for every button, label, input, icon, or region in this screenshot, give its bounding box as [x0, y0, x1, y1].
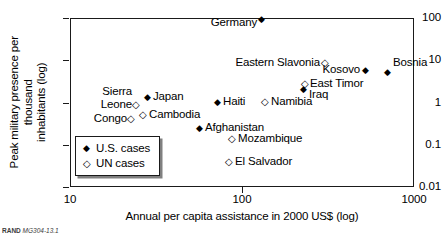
open-diamond-icon [139, 108, 147, 120]
open-diamond-icon [127, 112, 135, 124]
point-label-namibia: Namibia [271, 95, 312, 108]
y-tick-100 [63, 18, 69, 19]
source-caption: RAND MG304-13.1 [2, 227, 59, 235]
source-prefix: RAND [2, 227, 21, 234]
legend-item-un-cases[interactable]: UN cases [83, 156, 150, 171]
y-tick-label-0.1: 0.1 [383, 139, 441, 151]
filled-diamond-icon [83, 142, 96, 155]
x-tick-label-1000: 1000 [384, 194, 444, 206]
legend-label-un-cases: UN cases [96, 157, 145, 170]
x-tick-label-100: 100 [212, 194, 272, 206]
point-label-cambodia: Cambodia [149, 108, 200, 121]
y-tick-label-0.01: 0.01 [383, 181, 441, 193]
y-tick-1 [63, 103, 69, 104]
point-label-leone: Leone [101, 98, 132, 111]
filled-diamond-icon [195, 121, 203, 133]
filled-diamond-icon [361, 63, 369, 75]
point-label-kosovo: Kosovo [323, 63, 360, 76]
point-label-bosnia: Bosnia [393, 56, 427, 69]
filled-diamond-icon [143, 90, 151, 102]
filled-diamond-icon [213, 95, 221, 107]
point-label-germany: Germany [211, 16, 257, 29]
filled-diamond-icon [299, 82, 307, 94]
y-tick-0.1 [63, 145, 69, 146]
point-label-japan: Japan [153, 90, 184, 103]
open-diamond-icon [83, 157, 96, 171]
point-label-eastern-slavonia: Eastern Slavonia [235, 56, 320, 69]
y-axis-title-line2: inhabitants (log) [35, 12, 49, 192]
y-axis-title: Peak military presence per thousand inha… [8, 12, 49, 192]
y-axis-title-line1: Peak military presence per thousand [8, 12, 35, 192]
x-tick-label-10: 10 [40, 194, 100, 206]
y-tick-10 [63, 60, 69, 61]
point-label-sierra: Sierra [102, 85, 132, 98]
legend-label-us-cases: U.S. cases [96, 142, 150, 155]
point-label-haiti: Haiti [223, 95, 245, 108]
legend: U.S. cases UN cases [75, 136, 160, 176]
open-diamond-icon [225, 155, 233, 167]
source-id: MG304-13.1 [23, 227, 59, 234]
legend-item-us-cases[interactable]: U.S. cases [83, 141, 150, 156]
point-label-mozambique: Mozambique [238, 132, 302, 145]
filled-diamond-icon [257, 12, 265, 24]
open-diamond-icon [228, 132, 236, 144]
y-tick-label-100: 100 [383, 12, 441, 24]
y-tick-label-1: 1 [383, 97, 441, 109]
open-diamond-icon [261, 95, 269, 107]
filled-diamond-icon [383, 65, 391, 77]
point-label-el-salvador: El Salvador [235, 155, 292, 168]
point-label-congo: Congo [94, 112, 127, 125]
x-axis-title: Annual per capita assistance in 2000 US$… [70, 210, 414, 222]
y-tick-0.01 [63, 187, 69, 188]
